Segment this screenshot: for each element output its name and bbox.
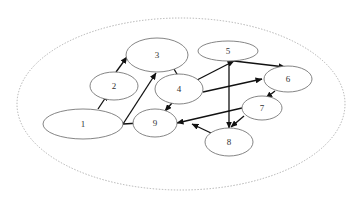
node-3: 3 [126,38,188,72]
edge-4-to-6 [203,79,262,92]
node-label: 2 [112,81,117,91]
edge-7-to-9 [177,108,242,123]
node-label: 6 [286,74,291,84]
edge-4-to-9 [165,103,172,111]
edge-7-to-8 [231,116,244,127]
node-label: 5 [226,46,231,56]
node-6: 6 [264,66,312,92]
node-2: 2 [90,72,138,100]
node-1: 1 [43,109,123,139]
edge-2-to-3 [116,57,127,72]
node-label: 7 [260,103,265,113]
node-7: 7 [242,96,282,120]
node-4: 4 [155,74,203,104]
nodes-layer: 123456789 [43,38,312,156]
graph-svg: 123456789 [0,0,362,199]
node-5: 5 [198,41,258,61]
node-8: 8 [205,128,253,156]
node-9: 9 [133,109,177,137]
node-label: 3 [155,50,160,60]
node-label: 9 [153,118,158,128]
edge-8-to-9 [192,124,211,133]
edge-5-to-6 [234,61,285,67]
node-label: 4 [177,84,182,94]
node-label: 1 [81,119,86,129]
diagram-canvas: 123456789 [0,0,362,199]
node-label: 8 [227,137,232,147]
